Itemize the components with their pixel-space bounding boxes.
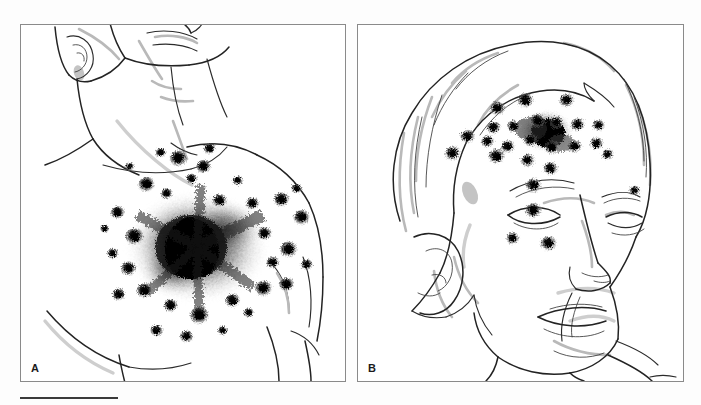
stipple-mark	[204, 143, 217, 155]
stipple-mark	[629, 185, 641, 196]
stipple-mark	[481, 135, 495, 148]
stipple-mark	[161, 188, 174, 200]
stipple-mark	[445, 146, 462, 161]
stipple-mark	[110, 206, 125, 220]
stipple-mark	[186, 173, 198, 184]
stipple-mark	[274, 192, 291, 207]
stipple-mark	[266, 257, 280, 270]
stipple-mark	[136, 283, 153, 299]
stipple-mark	[121, 261, 138, 276]
stipple-mark	[138, 177, 155, 193]
stipple-mark	[592, 120, 606, 133]
stipple-mark	[293, 210, 310, 226]
figure-root: A	[0, 0, 701, 405]
stipple-mark	[196, 160, 212, 175]
stipple-mark	[544, 141, 560, 156]
stipple-mark	[100, 224, 110, 233]
stipple-mark	[490, 101, 507, 116]
panel-b: B	[357, 24, 684, 382]
stipple-mark	[488, 149, 505, 165]
stipple-mark	[112, 288, 126, 301]
stipple-mark	[125, 162, 135, 171]
stipple-mark	[559, 94, 575, 109]
stipple-mark	[506, 232, 520, 245]
stipple-mark	[150, 325, 164, 338]
stipple-mark	[526, 178, 543, 193]
stipple-mark	[225, 294, 241, 309]
scale-bar	[20, 397, 118, 399]
stipple-mark	[460, 130, 476, 145]
face-shading	[400, 43, 651, 355]
stipple-mark	[301, 259, 314, 271]
panel-a: A	[20, 24, 346, 382]
stipple-mark	[232, 176, 243, 187]
stipple-mark	[212, 194, 227, 208]
stipple-mark	[540, 236, 557, 252]
stipple-mark	[517, 93, 534, 109]
panel-label-a: A	[31, 363, 39, 374]
stipple-mark	[180, 330, 194, 343]
stipple-mark	[125, 228, 145, 246]
stipple-mark	[524, 134, 538, 147]
stipple-mark	[520, 154, 535, 168]
stipple-mark	[486, 121, 501, 135]
stipple-mark	[543, 162, 559, 177]
stipple-mark	[243, 308, 254, 319]
panel-b-illustration	[358, 25, 683, 381]
stipple-mark	[257, 227, 272, 241]
stipple-mark	[280, 242, 298, 259]
stipple-mark	[190, 307, 211, 326]
stipple-mark	[246, 197, 260, 210]
stipple-mark	[107, 248, 119, 259]
stipple-mark	[550, 116, 564, 129]
stipple-mark	[170, 150, 189, 168]
stipple-mark	[218, 326, 229, 336]
stipple-mark	[279, 278, 295, 293]
stipple-mark	[255, 281, 273, 298]
stipple-mark	[590, 137, 604, 150]
stipple-mark	[291, 184, 302, 195]
stipple-mark	[570, 118, 585, 132]
stipple-mark	[155, 148, 166, 159]
stipple-mark	[507, 120, 521, 133]
stipple-mark	[525, 203, 542, 219]
stipple-mark	[567, 140, 582, 154]
panel-label-b: B	[368, 363, 376, 374]
stipple-mark	[602, 149, 615, 161]
stipple-mark	[530, 114, 546, 129]
panel-a-illustration	[21, 25, 345, 381]
stipple-mark	[163, 299, 178, 313]
